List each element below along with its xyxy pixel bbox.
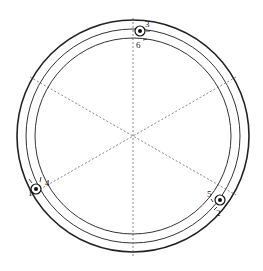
arrow-icon xyxy=(211,199,213,202)
marker-dot-icon xyxy=(34,187,38,191)
label-5: 5 xyxy=(207,189,212,199)
arrow-icon xyxy=(143,39,147,40)
label-4: 4 xyxy=(45,178,50,188)
diagram-canvas: 3 6 1 4 5 2 xyxy=(0,0,263,271)
ring-diagram: 3 6 1 4 5 2 xyxy=(0,0,263,271)
arrow-icon xyxy=(29,179,32,183)
dashed-axes xyxy=(30,18,236,257)
marker-dot-icon xyxy=(218,198,222,202)
marker-dot-icon xyxy=(138,29,142,33)
label-6: 6 xyxy=(136,40,141,50)
label-1: 1 xyxy=(28,188,33,198)
label-3: 3 xyxy=(145,19,150,29)
arrow-icon xyxy=(40,177,41,182)
label-2: 2 xyxy=(216,208,221,218)
